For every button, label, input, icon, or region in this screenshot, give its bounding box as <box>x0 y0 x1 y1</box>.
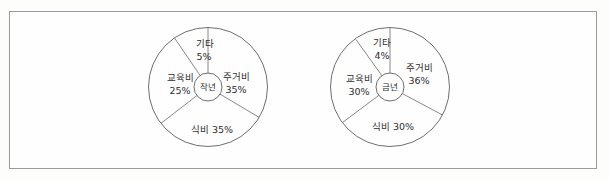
slice-value-education: 30% <box>348 86 369 97</box>
slice-label-education: 교육비 <box>346 73 373 84</box>
slice-value-other: 4% <box>374 50 389 61</box>
slice-value-housing: 36% <box>408 75 429 86</box>
pie-chart-stage: 작년 주거비 35% 식비 35% 교육비 25% 기타 5% 금년 주거비 <box>0 0 609 181</box>
slice-label-other: 기타 <box>373 37 391 48</box>
document-page: 작년 주거비 35% 식비 35% 교육비 25% 기타 5% 금년 주거비 <box>0 0 609 181</box>
slice-label-housing: 주거비 <box>406 62 433 73</box>
pie-chart-this-year-labels: 주거비 36% 식비 30% 교육비 30% 기타 4% <box>0 0 609 181</box>
slice-label-food: 식비 30% <box>372 121 414 132</box>
